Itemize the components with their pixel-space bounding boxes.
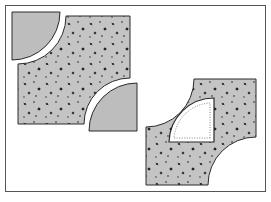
quilt-diagram (0, 0, 271, 202)
